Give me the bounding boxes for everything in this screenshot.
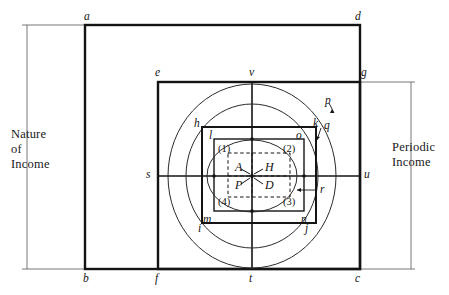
leader-label-r: r: [320, 183, 324, 195]
point-label-k: k: [313, 117, 318, 129]
point-label-u: u: [364, 168, 370, 180]
point-label-j: j: [305, 222, 308, 234]
point-label-e: e: [155, 66, 160, 78]
leader-label-p: p: [325, 94, 331, 106]
point-label-t: t: [249, 272, 252, 284]
point-label-b: b: [83, 272, 89, 284]
point-label-a: a: [84, 10, 90, 22]
point-label-h: h: [194, 117, 200, 129]
point-label-c: c: [355, 272, 360, 284]
point-label-l: l: [209, 129, 212, 141]
point-label-g: g: [361, 66, 367, 78]
core-label-a: A: [235, 160, 242, 175]
quadrant-label-2: (2): [283, 143, 295, 154]
axis-label-periodic-income: Periodic Income: [392, 140, 449, 170]
figure-root: Nature of Income Periodic Income a b c d…: [0, 0, 449, 295]
core-label-p: P: [235, 178, 242, 193]
point-label-s: s: [146, 168, 150, 180]
center-point: [250, 174, 254, 178]
bold-rectangle-hknm: [202, 127, 316, 223]
point-label-d: d: [355, 10, 361, 22]
point-label-o: o: [296, 129, 302, 141]
leader-label-q: q: [324, 119, 330, 131]
point-label-i: i: [198, 222, 201, 234]
quadrant-label-3: (3): [283, 196, 295, 207]
axis-label-nature-of-income: Nature of Income: [11, 127, 73, 171]
point-label-v: v: [249, 66, 254, 78]
quadrant-label-1: (1): [218, 143, 230, 154]
point-label-m: m: [203, 213, 211, 225]
core-label-d: D: [265, 178, 274, 193]
leader-line-r: [297, 188, 316, 192]
quadrant-label-4: (4): [218, 196, 230, 207]
point-label-f: f: [155, 272, 158, 284]
core-label-h: H: [265, 160, 274, 175]
